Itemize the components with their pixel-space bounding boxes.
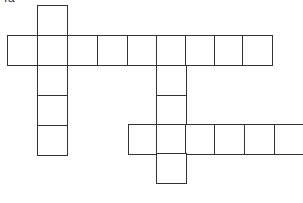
crossword-cell[interactable] bbox=[185, 35, 216, 66]
puzzle-caption: Ta bbox=[2, 0, 15, 5]
crossword-cell[interactable] bbox=[214, 124, 245, 155]
crossword-cell[interactable] bbox=[274, 124, 303, 155]
crossword-cell[interactable] bbox=[156, 124, 187, 155]
crossword-cell[interactable] bbox=[214, 35, 245, 66]
crossword-cell[interactable] bbox=[156, 65, 187, 96]
crossword-cell[interactable] bbox=[37, 5, 68, 36]
crossword-cell[interactable] bbox=[37, 125, 68, 156]
crossword-cell[interactable] bbox=[128, 124, 159, 155]
crossword-cell[interactable] bbox=[156, 35, 187, 66]
crossword-cell[interactable] bbox=[37, 95, 68, 126]
crossword-cell[interactable] bbox=[127, 35, 158, 66]
crossword-cell[interactable] bbox=[185, 124, 216, 155]
crossword-cell[interactable] bbox=[156, 153, 187, 184]
crossword-cell[interactable] bbox=[244, 124, 275, 155]
crossword-cell[interactable] bbox=[97, 35, 128, 66]
crossword-cell[interactable] bbox=[7, 35, 38, 66]
crossword-cell[interactable] bbox=[37, 65, 68, 96]
crossword-cell[interactable] bbox=[37, 35, 68, 66]
crossword-cell[interactable] bbox=[242, 35, 273, 66]
crossword-cell[interactable] bbox=[156, 95, 187, 126]
crossword-cell[interactable] bbox=[67, 35, 98, 66]
